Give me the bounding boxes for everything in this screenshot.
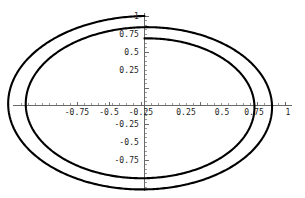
- x-tick-label-025: 0.25: [176, 108, 196, 117]
- y-tick-label-025: 0.25: [111, 66, 139, 75]
- x-tick-label-05: 0.5: [215, 108, 230, 117]
- x-tick-label-075: 0.75: [244, 108, 264, 117]
- y-tick-label-neg025: -0.25: [106, 120, 139, 129]
- y-tick-label-075: 0.75: [111, 30, 139, 39]
- x-tick-label-1: 1: [286, 108, 291, 117]
- spiral-plot-figure: -0.75 -0.5 -0.25 0.25 0.5 0.75 1 1 0.75 …: [0, 0, 305, 198]
- y-tick-label-1: 1: [121, 12, 139, 21]
- spiral-curve: [8, 16, 272, 189]
- y-tick-label-05: 0.5: [111, 48, 139, 57]
- plot-canvas: [0, 0, 305, 198]
- y-tick-label-neg05: -0.5: [106, 138, 139, 147]
- x-tick-label-neg025: -0.25: [129, 108, 154, 117]
- y-tick-label-neg075: -0.75: [106, 156, 139, 165]
- x-tick-label-neg05: -0.5: [99, 108, 119, 117]
- x-tick-label-neg075: -0.75: [65, 108, 90, 117]
